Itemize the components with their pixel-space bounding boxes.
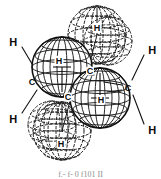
label-hydrogen-lower-left: H — [9, 114, 17, 125]
label-hydrogen-sphere-front-lower-right: H — [98, 96, 104, 105]
label-carbon-center-upper: C — [87, 67, 93, 76]
bond-h-lower-right-to-c-right — [133, 95, 144, 124]
label-hydrogen-lower-right: H — [148, 125, 156, 136]
label-hydrogen-upper-right: H — [148, 45, 156, 56]
figure-caption: f.- f- 0 f101 II — [0, 170, 161, 179]
label-carbon-left: C — [29, 78, 35, 87]
molecular-diagram-figure: H H H H C C C C H H H H f.- f- 0 f101 II — [0, 0, 161, 179]
label-carbon-center-lower: C — [65, 93, 71, 102]
label-hydrogen-sphere-front-upper-left: H — [56, 57, 62, 66]
back-sphere-lower-left-overlap — [28, 101, 76, 149]
label-hydrogen-sphere-back-lower-left: H — [58, 140, 64, 149]
label-hydrogen-upper-left: H — [9, 37, 17, 48]
bond-h-lower-left-to-c-left — [22, 90, 37, 113]
molecule-canvas — [0, 0, 161, 179]
bond-h-upper-right-to-c-right — [132, 55, 144, 80]
label-hydrogen-sphere-back-upper-right: H — [94, 24, 100, 33]
label-carbon-right: C — [125, 84, 131, 93]
